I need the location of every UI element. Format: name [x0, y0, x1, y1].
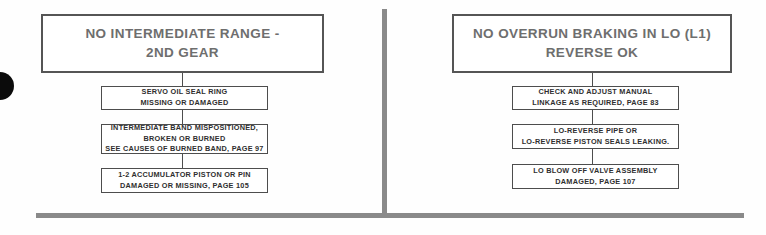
flowchart-step-text: INTERMEDIATE BAND MISPOSITIONED, BROKEN … — [105, 123, 263, 155]
flowchart-title-text: NO INTERMEDIATE RANGE - 2ND GEAR — [85, 25, 279, 61]
connector-title-to-step-1 — [592, 73, 593, 86]
connector-step-1-to-step-2 — [182, 110, 183, 124]
flowchart-step-text: LO BLOW OFF VALVE ASSEMBLY DAMAGED, PAGE… — [533, 166, 657, 187]
connector-step-2-to-step-3 — [182, 154, 183, 168]
column-divider — [382, 9, 387, 215]
flowchart-title-box: NO INTERMEDIATE RANGE - 2ND GEAR — [41, 14, 324, 73]
flowchart-step-box: SERVO OIL SEAL RING MISSING OR DAMAGED — [101, 86, 268, 110]
flowchart-step-box: 1-2 ACCUMULATOR PISTON OR PIN DAMAGED OR… — [101, 168, 268, 193]
connector-step-1-to-step-2 — [592, 110, 593, 124]
connector-title-to-step-1 — [182, 73, 183, 86]
flowchart-title-text: NO OVERRUN BRAKING IN LO (L1) REVERSE OK — [473, 25, 711, 61]
flowchart-step-text: LO-REVERSE PIPE OR LO-REVERSE PISTON SEA… — [522, 126, 670, 147]
flowchart-step-text: 1-2 ACCUMULATOR PISTON OR PIN DAMAGED OR… — [118, 170, 251, 191]
flowchart-step-box: INTERMEDIATE BAND MISPOSITIONED, BROKEN … — [101, 124, 268, 154]
page-punch-hole — [0, 72, 14, 100]
connector-step-2-to-step-3 — [592, 149, 593, 164]
flowchart-step-box: CHECK AND ADJUST MANUAL LINKAGE AS REQUI… — [512, 86, 679, 110]
flowchart-step-box: LO-REVERSE PIPE OR LO-REVERSE PISTON SEA… — [512, 124, 679, 149]
flowchart-step-text: SERVO OIL SEAL RING MISSING OR DAMAGED — [140, 87, 228, 108]
flowchart-step-box: LO BLOW OFF VALVE ASSEMBLY DAMAGED, PAGE… — [512, 164, 679, 189]
flowchart-title-box: NO OVERRUN BRAKING IN LO (L1) REVERSE OK — [452, 14, 732, 73]
flowchart-step-text: CHECK AND ADJUST MANUAL LINKAGE AS REQUI… — [532, 87, 659, 108]
bottom-rule — [36, 213, 744, 218]
